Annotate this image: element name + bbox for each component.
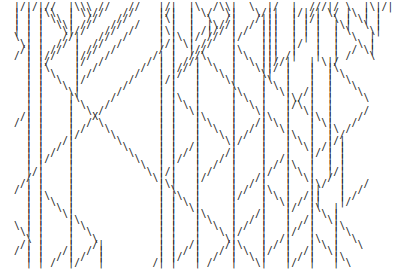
ascii-art: |/|/|// |\\\ // // |/| |\ /\\| \ |/ | //… [14, 4, 394, 266]
art-line: | | / |/ | /| | | / | \| |/ | | \ [14, 260, 394, 266]
